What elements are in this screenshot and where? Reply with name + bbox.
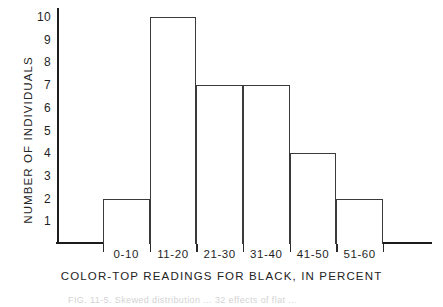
histogram-figure: NUMBER OF INDIVIDUALS 12345678910 COLOR-… [0,0,443,307]
y-tick-label: 5 [27,124,51,138]
y-tick-label: 7 [27,78,51,92]
x-tick-label: 21-30 [203,248,235,260]
bar [103,199,150,244]
bar [336,199,383,244]
bar [150,17,197,244]
x-tick-mark [243,244,244,252]
plot-area: 12345678910 [57,8,432,244]
y-tick-label: 8 [27,55,51,69]
y-tick-label: 10 [27,10,51,24]
figure-caption: FIG. 11-5. Skewed distribution ... 32 ef… [68,295,408,306]
y-tick-label: 3 [27,169,51,183]
x-tick-label: 31-40 [250,248,282,260]
x-tick-mark [290,244,291,252]
x-axis-title: COLOR-TOP READINGS FOR BLACK, IN PERCENT [0,270,443,282]
x-tick-label: 0-10 [114,248,139,260]
y-tick-label: 2 [27,192,51,206]
y-tick-label: 4 [27,146,51,160]
x-tick-label: 51-60 [343,248,375,260]
x-tick-label: 41-50 [297,248,329,260]
y-tick-label: 6 [27,101,51,115]
x-tick-mark [336,244,337,252]
bar [243,85,290,244]
x-tick-mark [196,244,197,252]
bar [196,85,243,244]
x-tick-mark [383,244,384,252]
y-tick-label: 9 [27,33,51,47]
x-tick-mark [150,244,151,252]
y-axis-line [57,8,59,244]
bar [290,153,337,244]
y-tick-label: 1 [27,214,51,228]
x-tick-label: 11-20 [157,248,189,260]
x-tick-mark [103,244,104,252]
